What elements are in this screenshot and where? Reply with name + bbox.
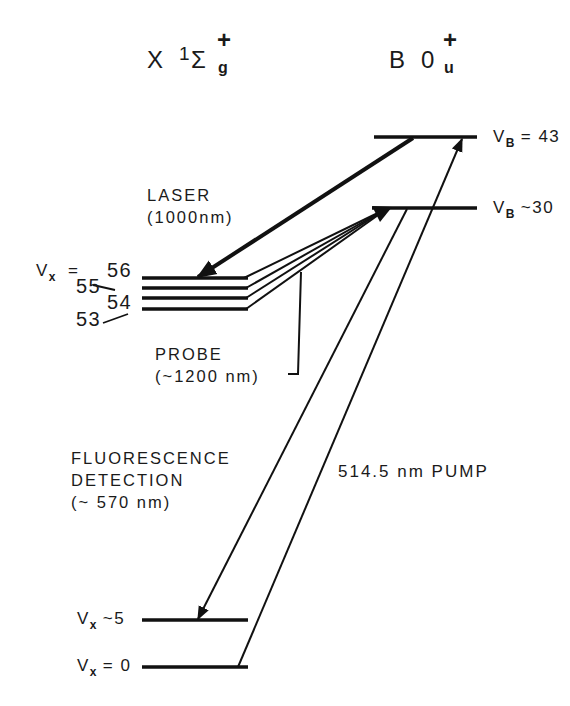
ground-state-symbol: Σ	[191, 48, 208, 72]
fluorescence-wavelength: (~ 570 nm)	[71, 491, 231, 513]
laser-wavelength: (1000nm)	[147, 206, 234, 228]
label-vx54: 54	[107, 292, 132, 312]
probe-leader	[288, 272, 301, 374]
fluorescence-subtitle: DETECTION	[71, 469, 231, 491]
energy-level-diagram: X 1 Σ + g B 0 + u VB = 43 VB ~30 Vx = 56…	[0, 0, 570, 706]
probe-arrow-54	[246, 209, 386, 298]
probe-wavelength: (~1200 nm)	[155, 365, 260, 387]
fluorescence-title: FLUORESCENCE	[71, 447, 231, 469]
fluorescence-arrow	[198, 209, 407, 619]
label-vx55: 55	[76, 276, 101, 296]
label-vx-prefix: Vx =	[36, 262, 79, 283]
excited-state-letter: B	[389, 48, 407, 72]
label-vx53: 53	[76, 309, 101, 329]
ground-state-multiplicity: 1	[179, 44, 191, 63]
probe-annotation: PROBE (~1200 nm)	[155, 343, 260, 387]
label-vx0: Vx = 0	[77, 657, 131, 678]
fluorescence-annotation: FLUORESCENCE DETECTION (~ 570 nm)	[71, 447, 231, 513]
label-vx5: Vx ~5	[77, 610, 125, 631]
ground-state-label: X	[147, 48, 165, 72]
pump-arrow	[238, 139, 462, 667]
tick-53	[103, 314, 128, 323]
state-letter-x: X	[147, 46, 165, 73]
ground-state-parity: g	[218, 60, 229, 76]
excited-state-parity: u	[444, 60, 455, 76]
label-vx56: 56	[107, 260, 132, 280]
excited-state-symbol: 0	[421, 48, 436, 72]
probe-title: PROBE	[155, 343, 260, 365]
probe-arrow-56	[244, 209, 386, 278]
label-vb30: VB ~30	[493, 199, 554, 220]
laser-annotation: LASER (1000nm)	[147, 184, 234, 228]
pump-annotation: 514.5 nm PUMP	[338, 463, 489, 480]
excited-state-plus: +	[443, 28, 459, 52]
laser-title: LASER	[147, 184, 234, 206]
ground-state-plus: +	[217, 28, 233, 52]
diagram-lines	[0, 0, 570, 706]
label-vb43: VB = 43	[493, 128, 560, 149]
probe-arrow-53	[246, 208, 388, 309]
probe-arrow-55	[246, 209, 386, 288]
